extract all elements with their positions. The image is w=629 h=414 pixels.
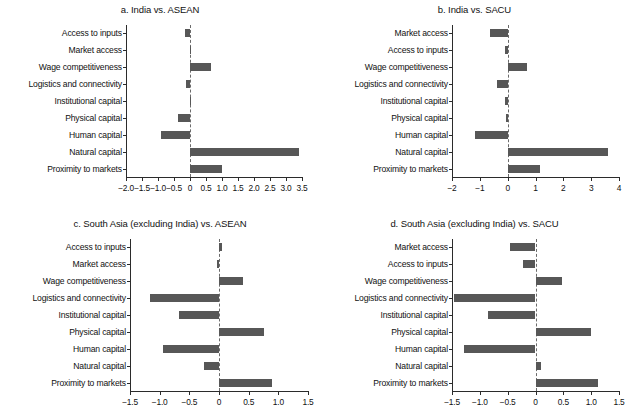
y-tick-d-3 (449, 298, 452, 299)
bar-c-1 (217, 260, 219, 268)
category-label-c-7: Natural capital (73, 361, 126, 370)
category-label-c-3: Logistics and connectivity (32, 294, 126, 303)
x-tick-label-d-0: −1.5 (444, 397, 460, 407)
x-tick-label-d-4: 0.5 (558, 397, 569, 407)
x-tick-c-6 (308, 391, 309, 395)
y-tick-c-3 (127, 298, 130, 299)
y-tick-c-7 (127, 366, 130, 367)
category-label-d-5: Physical capital (391, 328, 448, 337)
figure-multi-panel-bar-charts: a. India vs. ASEANAccess to inputsMarket… (0, 0, 629, 414)
bar-c-2 (219, 277, 243, 285)
bar-d-3 (454, 294, 536, 302)
x-tick-label-c-4: 0.5 (243, 397, 254, 407)
category-label-d-8: Proximity to markets (373, 378, 448, 387)
x-tick-label-d-2: −0.5 (500, 397, 516, 407)
category-label-c-2: Wage competitiveness (43, 277, 126, 286)
y-axis-line-c (130, 239, 131, 391)
x-tick-label-c-6: 1.5 (302, 397, 313, 407)
plot-area-d: −1.5−1.0−0.500.51.01.5 (452, 239, 619, 391)
plot-area-c: −1.5−1.0−0.500.51.01.5 (130, 239, 308, 391)
x-tick-d-1 (480, 391, 481, 395)
x-tick-d-5 (591, 391, 592, 395)
x-tick-label-d-1: −1.0 (472, 397, 488, 407)
category-label-d-0: Market access (395, 243, 448, 252)
y-axis-line-d (452, 239, 453, 391)
panel-d: d. South Asia (excluding India) vs. SACU… (320, 0, 629, 414)
category-labels-c: Access to inputsMarket accessWage compet… (0, 239, 126, 391)
bar-d-4 (488, 311, 535, 319)
x-tick-c-1 (160, 391, 161, 395)
y-tick-d-5 (449, 332, 452, 333)
bar-d-6 (464, 345, 535, 353)
category-labels-d: Market accessAccess to inputsWage compet… (320, 239, 448, 391)
bar-c-5 (219, 328, 264, 336)
category-label-c-5: Physical capital (69, 328, 126, 337)
y-tick-c-5 (127, 332, 130, 333)
x-tick-label-c-3: 0 (217, 397, 221, 407)
x-tick-c-5 (278, 391, 279, 395)
category-label-d-2: Wage competitiveness (365, 277, 448, 286)
x-tick-d-0 (452, 391, 453, 395)
x-tick-label-c-2: −0.5 (181, 397, 197, 407)
category-label-c-6: Human capital (73, 344, 126, 353)
x-tick-d-6 (619, 391, 620, 395)
panel-title-c: c. South Asia (excluding India) vs. ASEA… (0, 218, 320, 229)
bar-c-6 (163, 345, 219, 353)
bar-d-0 (510, 243, 535, 251)
y-tick-d-0 (449, 247, 452, 248)
category-label-c-1: Market access (73, 260, 126, 269)
x-tick-d-2 (508, 391, 509, 395)
x-tick-c-2 (189, 391, 190, 395)
x-tick-c-0 (130, 391, 131, 395)
zero-reference-line-c (219, 239, 220, 391)
y-tick-c-4 (127, 315, 130, 316)
category-label-d-1: Access to inputs (388, 260, 448, 269)
x-tick-c-4 (249, 391, 250, 395)
category-label-d-3: Logistics and connectivity (354, 294, 448, 303)
bar-d-8 (536, 379, 599, 387)
bar-d-7 (536, 362, 541, 370)
x-tick-label-c-5: 1.0 (273, 397, 284, 407)
bar-c-8 (219, 379, 272, 387)
bar-c-7 (204, 362, 219, 370)
bar-d-5 (536, 328, 592, 336)
panel-title-d: d. South Asia (excluding India) vs. SACU (320, 218, 629, 229)
x-tick-d-3 (536, 391, 537, 395)
y-tick-d-2 (449, 281, 452, 282)
y-tick-d-6 (449, 349, 452, 350)
y-tick-d-4 (449, 315, 452, 316)
y-tick-c-0 (127, 247, 130, 248)
y-tick-c-1 (127, 264, 130, 265)
x-tick-d-4 (563, 391, 564, 395)
x-tick-label-d-6: 1.5 (613, 397, 624, 407)
y-tick-d-8 (449, 383, 452, 384)
bar-d-2 (536, 277, 562, 285)
bar-d-1 (523, 260, 535, 268)
category-label-c-4: Institutional capital (58, 311, 126, 320)
bar-c-3 (150, 294, 219, 302)
x-tick-c-3 (219, 391, 220, 395)
y-tick-c-6 (127, 349, 130, 350)
category-label-d-4: Institutional capital (380, 311, 448, 320)
bar-c-4 (179, 311, 219, 319)
category-label-c-0: Access to inputs (66, 243, 126, 252)
category-label-d-6: Human capital (395, 344, 448, 353)
y-tick-d-1 (449, 264, 452, 265)
y-tick-d-7 (449, 366, 452, 367)
x-tick-label-c-0: −1.5 (122, 397, 138, 407)
panel-c: c. South Asia (excluding India) vs. ASEA… (0, 0, 320, 414)
x-tick-label-d-5: 1.0 (586, 397, 597, 407)
category-label-d-7: Natural capital (395, 361, 448, 370)
bar-c-0 (219, 243, 222, 251)
x-tick-label-d-3: 0 (533, 397, 537, 407)
y-tick-c-8 (127, 383, 130, 384)
category-label-c-8: Proximity to markets (51, 378, 126, 387)
y-tick-c-2 (127, 281, 130, 282)
x-tick-label-c-1: −1.0 (152, 397, 168, 407)
